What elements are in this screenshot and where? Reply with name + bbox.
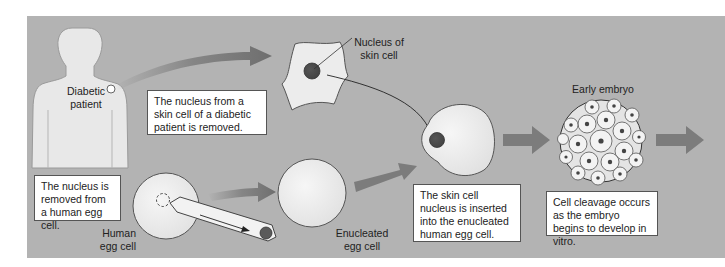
label-line: Diabetic [58,85,114,98]
arrow-egg-to-enucleated [208,182,276,202]
label-diabetic-patient: Diabetic patient [58,85,114,110]
arrow-to-embryo [503,126,550,154]
label-skin-cell-nucleus: Nucleus of skin cell [344,36,414,61]
label-enucleated-egg-cell: Enucleated egg cell [328,227,396,252]
step-box-cleavage: Cell cleavage occurs as the embryo begin… [546,191,658,236]
label-line: Nucleus of [344,36,414,49]
label-early-embryo: Early embryo [568,83,638,96]
label-line: Enucleated [328,227,396,240]
inserted-nucleus [430,133,445,148]
enucleated-egg-cell [278,159,346,227]
skin-cell [282,38,352,110]
label-line: egg cell [328,240,396,253]
skin-cell-nucleus [304,63,320,79]
arrow-patient-to-skin-cell [115,46,272,90]
nucleus-transfer-path [327,75,436,139]
arrow-embryo-onward [656,126,704,154]
step-box-skin-nucleus-removed: The nucleus from a skin cell of a diabet… [147,90,267,135]
label-line: Human [90,227,136,240]
label-human-egg-cell: Human egg cell [90,227,136,252]
reconstructed-egg-cell [422,104,495,175]
label-line: patient [58,98,114,111]
early-embryo [558,99,646,185]
step-box-nucleus-inserted: The skin cell nucleus is inserted into t… [413,184,521,242]
step-box-egg-nucleus-removed: The nucleus is removed from a human egg … [34,175,121,221]
arrow-enucleated-to-reconstructed [354,163,417,192]
label-line: skin cell [344,49,414,62]
label-line: egg cell [90,240,136,253]
extracted-nucleus [260,227,272,239]
